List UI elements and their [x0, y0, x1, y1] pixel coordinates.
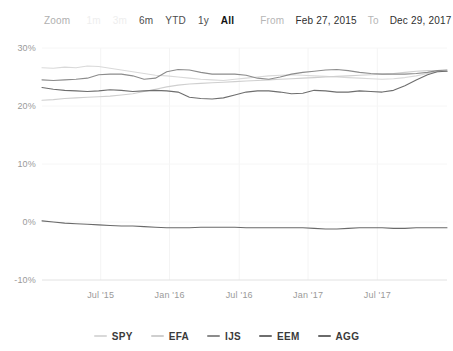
- chart-legend: SPYEFAIJSEEMAGG: [0, 326, 453, 346]
- date-range-inputs: From Feb 27, 2015 To Dec 29, 2017: [254, 13, 453, 28]
- legend-label-efa: EFA: [169, 331, 189, 342]
- x-tick-label-4: Jul '17: [364, 290, 391, 300]
- series-group: [42, 66, 447, 229]
- to-label: To: [362, 15, 385, 26]
- chart-canvas[interactable]: 30%20%10%0%-10% Jul '15Jan '16Jul '16Jan…: [0, 34, 453, 309]
- legend-item-ijs[interactable]: IJS: [207, 331, 241, 342]
- legend-item-agg[interactable]: AGG: [318, 331, 360, 342]
- legend-swatch-efa: [151, 335, 164, 337]
- x-tick-label-1: Jan '16: [155, 290, 185, 300]
- plot-area[interactable]: 30%20%10%0%-10% Jul '15Jan '16Jul '16Jan…: [0, 34, 453, 309]
- legend-label-spy: SPY: [112, 331, 133, 342]
- series-line-spy: [42, 66, 447, 81]
- y-tick-label-1: 20%: [17, 101, 36, 111]
- y-tick-label-2: 10%: [17, 159, 36, 169]
- x-tick-label-0: Jul '15: [87, 290, 114, 300]
- y-tick-label-3: 0%: [23, 217, 36, 227]
- range-button-1y[interactable]: 1y: [192, 13, 215, 28]
- to-date-input[interactable]: Dec 29, 2017: [385, 13, 453, 28]
- range-button-ytd[interactable]: YTD: [159, 13, 192, 28]
- y-axis-labels: 30%20%10%0%-10%: [14, 43, 36, 285]
- legend-label-agg: AGG: [336, 331, 360, 342]
- legend-swatch-spy: [94, 335, 107, 337]
- x-axis-labels: Jul '15Jan '16Jul '16Jan '17Jul '17: [87, 290, 391, 300]
- range-button-3m[interactable]: 3m: [107, 13, 133, 28]
- stock-chart-widget: Zoom 1m3m6mYTD1yAll From Feb 27, 2015 To…: [0, 0, 453, 351]
- range-button-6m[interactable]: 6m: [133, 13, 159, 28]
- x-tick-label-2: Jul '16: [226, 290, 253, 300]
- range-selector-toolbar: Zoom 1m3m6mYTD1yAll From Feb 27, 2015 To…: [0, 8, 453, 32]
- legend-label-ijs: IJS: [225, 331, 241, 342]
- legend-swatch-eem: [259, 335, 272, 337]
- from-label: From: [254, 15, 290, 26]
- legend-item-eem[interactable]: EEM: [259, 331, 300, 342]
- legend-swatch-agg: [318, 335, 331, 337]
- legend-item-efa[interactable]: EFA: [151, 331, 189, 342]
- range-button-1m[interactable]: 1m: [80, 13, 106, 28]
- legend-item-spy[interactable]: SPY: [94, 331, 133, 342]
- from-date-input[interactable]: Feb 27, 2015: [290, 13, 361, 28]
- x-tick-label-3: Jan '17: [293, 290, 323, 300]
- y-tick-label-0: 30%: [17, 43, 36, 53]
- range-buttons-group: 1m3m6mYTD1yAll: [80, 13, 240, 28]
- legend-label-eem: EEM: [277, 331, 300, 342]
- y-tick-label-4: -10%: [14, 275, 36, 285]
- zoom-label: Zoom: [44, 15, 70, 26]
- legend-swatch-ijs: [207, 335, 220, 337]
- range-button-all[interactable]: All: [215, 13, 240, 28]
